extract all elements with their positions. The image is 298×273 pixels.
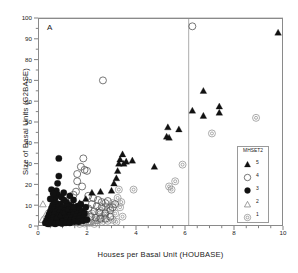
data-point-open-triangle [40,201,47,207]
legend-symbol-open-circle-icon [242,169,253,180]
y-tick-label: 50 [16,118,32,125]
legend-label: 5 [256,159,259,165]
legend-label: 2 [256,198,259,204]
data-point-open-circle [74,171,81,178]
data-point-filled-triangle [216,103,223,109]
data-point-filled-triangle [189,107,196,113]
legend-title: MHSET2 [238,148,268,153]
data-point-double-circle [130,186,137,193]
series-3 [42,155,90,227]
data-point-filled-triangle [97,188,104,194]
scatter-plot-figure: A Houses per Basal Unit (HOUBASE) Size o… [0,0,298,273]
y-tick-label: 40 [16,139,32,146]
x-tick-label: 10 [273,229,293,236]
data-point-filled-circle [83,204,89,210]
data-point-filled-circle [245,188,251,194]
data-point-double-circle [179,161,186,168]
y-tick-label: 80 [16,56,32,63]
data-point-filled-triangle [151,163,158,169]
data-point-filled-circle [47,196,53,202]
x-tick-label: 0 [28,229,48,236]
data-point-filled-circle [84,217,90,223]
data-point-filled-triangle [108,187,115,193]
data-point-double-circle [119,213,126,220]
y-tick-label: 20 [16,181,32,188]
series-4 [52,23,196,223]
x-tick-label: 4 [126,229,146,236]
data-point-double-circle [115,186,122,193]
data-point-filled-circle [54,180,60,186]
y-tick-label: 90 [16,35,32,42]
legend-entry-5[interactable]: 5 [238,156,268,168]
data-point-double-circle [166,183,173,190]
legend-symbol-filled-triangle-icon [242,156,253,167]
y-tick-label: 100 [16,14,32,21]
data-point-filled-circle [56,155,62,161]
y-tick-label: 10 [16,202,32,209]
data-point-double-circle [172,178,179,185]
data-point-filled-triangle [244,161,250,167]
x-axis-title: Houses per Basal Unit (HOUBASE) [38,250,283,259]
legend-entry-1[interactable]: 1 [238,209,268,221]
data-point-open-circle [99,77,106,84]
data-point-filled-circle [56,173,62,179]
y-tick-label: 70 [16,77,32,84]
data-point-filled-triangle [82,196,89,202]
legend-symbol-double-circle-icon [242,209,253,220]
x-tick-label: 8 [224,229,244,236]
data-point-filled-triangle [165,124,172,130]
legend-entry-4[interactable]: 4 [238,169,268,181]
legend-entry-3[interactable]: 3 [238,182,268,194]
data-point-filled-triangle [216,109,223,115]
y-tick-label: 60 [16,98,32,105]
data-point-filled-triangle [114,167,121,173]
data-point-filled-triangle [200,87,207,93]
data-point-open-circle [79,183,86,190]
data-point-open-circle [80,155,87,162]
x-tick-label: 2 [77,229,97,236]
data-point-open-circle [189,23,196,30]
data-point-open-circle [244,174,250,180]
panel-label: A [47,23,52,32]
legend-label: 3 [256,185,259,191]
legend-entry-2[interactable]: 2 [238,196,268,208]
legend-label: 1 [256,211,259,217]
data-point-filled-triangle [200,112,207,118]
data-point-filled-triangle [275,29,282,35]
data-point-filled-triangle [129,157,136,163]
data-point-open-triangle [244,201,250,207]
y-tick-label: 30 [16,160,32,167]
legend-label: 4 [256,172,259,178]
data-point-filled-triangle [176,126,183,132]
legend-symbol-filled-circle-icon [242,182,253,193]
data-point-double-circle [253,114,260,121]
legend-symbol-open-triangle-icon [242,196,253,207]
data-point-double-circle [244,214,250,220]
data-point-double-circle [117,204,124,211]
y-tick-label: 0 [16,222,32,229]
data-point-filled-circle [67,193,73,199]
data-point-open-circle [84,167,91,174]
data-point-double-circle [208,130,215,137]
x-tick-label: 6 [175,229,195,236]
data-point-filled-circle [61,190,67,196]
data-point-double-circle [168,186,175,193]
